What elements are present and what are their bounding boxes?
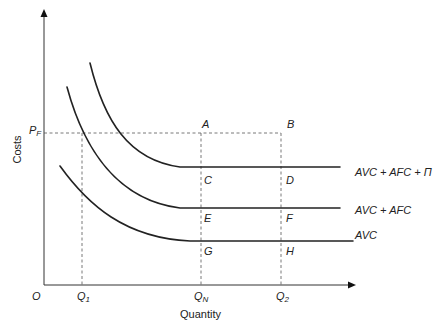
curve-label-avc-afc: AVC + AFC: [355, 205, 411, 216]
curve-avc-afc: [67, 87, 340, 208]
guide-lines: [44, 133, 281, 285]
x-axis-arrow-icon: [348, 282, 356, 289]
point-a-label: A: [202, 119, 209, 130]
point-b-label: B: [287, 119, 294, 130]
y-axis-title: Costs: [12, 132, 23, 168]
point-f-label: F: [286, 213, 293, 224]
cost-curves-diagram: [0, 0, 436, 327]
y-tick-pf: PF: [29, 125, 41, 138]
x-tick-q2-sub: 2: [285, 295, 289, 304]
x-tick-qn-main: Q: [194, 290, 203, 302]
x-tick-q1: Q1: [77, 291, 90, 304]
x-tick-q2-main: Q: [276, 290, 285, 302]
origin-label: O: [32, 291, 41, 302]
y-axis-arrow-icon: [41, 9, 48, 17]
axes: [41, 9, 357, 289]
x-tick-q1-sub: 1: [86, 295, 90, 304]
x-axis-title: Quantity: [180, 309, 221, 320]
point-c-label: C: [204, 175, 212, 186]
curve-avc-afc-profit: [90, 63, 340, 167]
curve-label-avc-afc-profit: AVC + AFC + Π: [355, 167, 432, 178]
point-g-label: G: [204, 246, 213, 257]
x-tick-qn: QN: [194, 291, 208, 304]
y-tick-pf-sub: F: [36, 129, 41, 138]
x-tick-qn-sub: N: [203, 295, 209, 304]
x-tick-q2: Q2: [276, 291, 289, 304]
point-h-label: H: [286, 246, 294, 257]
x-tick-q1-main: Q: [77, 290, 86, 302]
curve-label-avc: AVC: [355, 230, 377, 241]
point-e-label: E: [204, 213, 211, 224]
point-d-label: D: [286, 175, 294, 186]
